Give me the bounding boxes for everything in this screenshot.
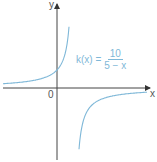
curve-left-branch: [3, 27, 69, 84]
origin-label: 0: [48, 89, 54, 100]
function-numerator: 10: [108, 48, 123, 60]
x-axis-label: x: [150, 88, 155, 99]
function-name: k(x) =: [76, 54, 101, 65]
graph: [0, 0, 157, 162]
y-axis-label: y: [49, 0, 54, 10]
function-denominator: 5 − x: [104, 60, 126, 71]
function-label: k(x) = 10 5 − x: [76, 48, 126, 71]
curve-right-branch: [79, 92, 147, 149]
